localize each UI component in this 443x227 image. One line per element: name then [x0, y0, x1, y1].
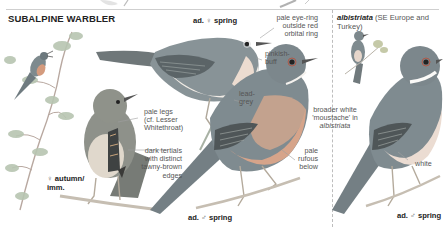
annotation-line: grey [239, 98, 255, 106]
subspecies-heading: albistriata (SE Europe and Turkey) [337, 13, 443, 31]
singing-bird-small [14, 51, 53, 100]
species-title: SUBALPINE WARBLER [8, 13, 115, 24]
annotation-line: albistriata [306, 122, 364, 130]
annotation-white: white [415, 160, 432, 168]
male-symbol-icon: ♂ [410, 211, 416, 220]
annotation-lead-grey: lead- grey [239, 90, 255, 106]
annotation-line: Whitethroat) [144, 124, 183, 132]
annotation-line: white [415, 160, 432, 168]
female-symbol-icon: ♀ [47, 174, 53, 183]
label-male-spring: ad. ♂ spring [188, 213, 232, 222]
label-male-albistriata: ad. ♂ spring [397, 211, 441, 220]
annotation-tertials: dark tertials with distinct tawny-brown … [134, 147, 182, 180]
age-prefix: ad. [193, 16, 204, 25]
season-line2: imm. [47, 183, 65, 192]
annotation-pale-legs: pale legs (cf. Lesser Whitethroat) [144, 108, 183, 133]
label-female-autumn: ♀ autumn/ imm. [47, 174, 84, 192]
season: spring [214, 16, 237, 25]
annotation-line: orbital ring [272, 30, 318, 38]
age-prefix: ad. [397, 211, 408, 220]
bird-albistriata-small [345, 31, 388, 84]
season: autumn/ [55, 174, 85, 183]
annotation-eye-ring: pale eye-ring outside red orbital ring [272, 14, 318, 39]
field-guide-plate: SUBALPINE WARBLER albistriata (SE Europe… [0, 0, 443, 227]
season: spring [418, 211, 441, 220]
male-symbol-icon: ♂ [201, 213, 207, 222]
annotation-line: buff [265, 58, 290, 66]
top-remnant-art [100, 0, 309, 7]
subspecies-name: albistriata [337, 13, 373, 22]
season: spring [209, 213, 232, 222]
label-female-spring: ad. ♀ spring [193, 16, 237, 25]
age-prefix: ad. [188, 213, 199, 222]
bird-illustrations [0, 0, 443, 227]
annotation-pale-rufous: pale rufous below [288, 147, 318, 172]
annotation-moustache: broader white 'moustache' in albistriata [306, 106, 364, 131]
annotation-line: edges [134, 172, 182, 180]
annotation-line: below [288, 163, 318, 171]
annotation-pinkish-buff: pinkish- buff [265, 50, 290, 66]
female-symbol-icon: ♀ [206, 16, 212, 25]
